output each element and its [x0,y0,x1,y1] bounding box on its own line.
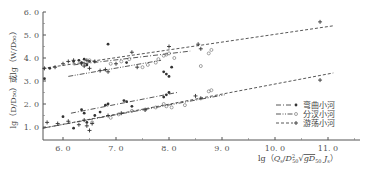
plus-marker [294,121,298,125]
filled-dot-marker [123,99,126,102]
plus-marker [167,45,171,49]
filled-dot-marker [165,93,168,96]
plus-marker [135,65,139,69]
filled-dot-marker [93,114,96,117]
open-circle-marker [141,66,144,69]
open-circle-marker [173,57,176,60]
y-tick-label: 3. 0 [24,77,39,86]
legend-item: 分汊小河 [276,109,335,119]
open-circle-marker [162,103,165,106]
filled-dot-marker [162,96,165,99]
open-circle-marker [165,105,168,108]
filled-dot-marker [295,104,298,107]
open-circle-marker [199,65,202,68]
legend: 弯曲小河分汊小河游荡小河 [276,100,335,128]
plus-marker [45,120,49,124]
filled-dot-marker [85,121,88,124]
filled-dot-marker [43,77,46,80]
filled-dot-marker [78,59,81,62]
x-tick-label: 9. 0 [214,144,229,153]
x-tick-label: 6. 0 [55,144,70,153]
plus-marker [85,124,89,128]
filled-dot-marker [168,91,171,94]
plus-marker [130,50,134,54]
open-circle-marker [170,106,173,109]
x-tick-label: 7. 0 [108,144,123,153]
plus-marker [194,94,198,98]
open-circle-marker [183,104,186,107]
filled-dot-marker [131,105,134,108]
fit-lines [43,26,333,128]
legend-label: 弯曲小河 [303,100,335,110]
plus-marker [53,65,57,69]
filled-dot-marker [125,61,128,64]
series-plus [42,20,322,133]
series-open-circle [88,48,213,123]
filled-dot-marker [62,115,65,118]
open-circle-marker [157,58,160,61]
y-tick-label: 5. 0 [24,31,39,40]
filled-dot-marker [168,75,171,78]
open-circle-marker [210,48,213,51]
plus-marker [66,59,70,63]
fit-line-dash-dot [71,93,177,114]
x-axis-ticks: 6. 07. 08. 09. 010. 011. 0 [55,137,354,153]
plus-marker [93,59,97,63]
filled-dot-marker [72,127,75,130]
plus-marker [72,58,76,62]
filled-dot-marker [165,73,168,76]
filled-dot-marker [99,111,102,114]
plus-marker [114,62,118,66]
open-circle-marker [109,62,112,65]
y-tick-label: 4. 0 [24,54,39,63]
filled-dot-marker [107,43,110,46]
legend-item: 游荡小河 [276,118,335,128]
x-axis-label-text: lg（Qs/D250√gD50 Js） [258,153,338,164]
legend-item: 弯曲小河 [276,100,335,110]
filled-dot-marker [104,104,107,107]
x-tick-label: 11. 0 [318,144,338,153]
plus-marker [106,70,110,74]
x-tick-label: 8. 0 [161,144,176,153]
x-axis-label: lg（Qs/D250√gD50 Js） [258,153,338,164]
open-circle-marker [207,90,210,93]
y-axis-label: lg（D/D₅₀）或lg（W/D₅₀） [8,27,18,128]
open-circle-marker [295,113,298,116]
plus-marker [77,123,81,127]
y-tick-label: 1. 0 [24,123,39,132]
legend-label: 游荡小河 [303,118,335,128]
filled-dot-marker [162,70,165,73]
filled-dot-marker [48,67,51,70]
open-circle-marker [109,116,112,119]
plus-marker [88,128,92,132]
plus-marker [199,47,203,51]
filled-dot-marker [125,100,128,103]
open-circle-marker [120,60,123,63]
data-points [42,20,322,133]
y-tick-label: 6. 0 [24,8,39,17]
filled-dot-marker [107,103,110,106]
open-circle-marker [154,61,157,64]
legend-label: 分汊小河 [303,109,335,119]
fit-line-dash-dot-dot [43,95,225,128]
plus-marker [82,118,86,122]
filled-dot-marker [170,66,173,69]
filled-dot-marker [80,108,83,111]
open-circle-marker [146,63,149,66]
plus-marker [318,20,322,24]
filled-dot-marker [83,112,86,115]
plus-marker [318,78,322,82]
scatter-chart: 1. 02. 03. 04. 05. 06. 0 6. 07. 08. 09. … [0,0,365,169]
x-tick-label: 10. 0 [265,144,285,153]
open-circle-marker [207,52,210,55]
plus-marker [98,69,102,73]
plus-marker [88,66,92,70]
y-tick-label: 2. 0 [24,100,39,109]
plus-marker [103,68,107,72]
open-circle-marker [128,58,131,61]
